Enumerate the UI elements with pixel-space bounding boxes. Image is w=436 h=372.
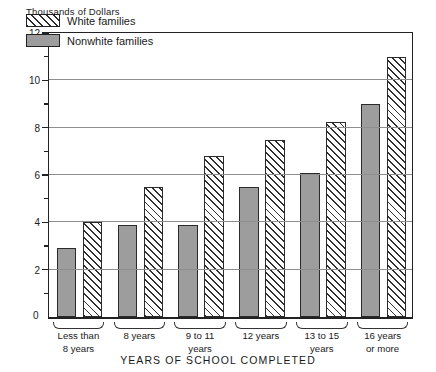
chart-legend: White families Nonwhite families (26, 14, 153, 54)
gridline-6 (49, 174, 412, 175)
group-brace-3 (235, 322, 287, 329)
group-brace-2 (174, 322, 226, 329)
plot-area: 24681012 (48, 32, 413, 318)
y-tick-label-4: 4 (34, 217, 40, 228)
bar-white-3 (265, 140, 285, 318)
hatch-swatch-icon (26, 14, 60, 27)
bars-layer (49, 33, 412, 317)
solid-swatch-icon (26, 34, 60, 47)
gridline-8 (49, 127, 412, 128)
bar-nonwhite-0 (57, 248, 77, 317)
bar-nonwhite-4 (300, 173, 320, 317)
category-label-5: 16 years or more (352, 330, 413, 355)
y-tick-6 (42, 174, 49, 175)
x-axis-baseline (48, 317, 413, 319)
y-tick-label-10: 10 (29, 75, 40, 86)
bar-white-5 (387, 57, 407, 317)
y-minor-tick-3 (44, 245, 49, 246)
y-minor-tick-7 (44, 151, 49, 152)
y-tick-4 (42, 222, 49, 223)
group-brace-4 (296, 322, 348, 329)
income-by-education-bar-chart: Thousands of Dollars 24681012 White fami… (0, 0, 436, 372)
x-axis-title: YEARS OF SCHOOL COMPLETED (0, 354, 436, 366)
group-brace-5 (357, 322, 409, 329)
y-tick-label-2: 2 (34, 264, 40, 275)
bar-nonwhite-3 (239, 187, 259, 317)
bar-white-1 (144, 187, 164, 317)
legend-item-white-families: White families (26, 14, 153, 27)
gridline-10 (49, 79, 412, 80)
y-minor-tick-5 (44, 198, 49, 199)
y-tick-2 (42, 269, 49, 270)
bar-nonwhite-1 (118, 225, 138, 317)
category-label-1: 8 years (109, 330, 170, 343)
y-minor-tick-9 (44, 103, 49, 104)
bar-nonwhite-2 (178, 225, 198, 317)
category-label-4: 13 to 15 years (291, 330, 352, 355)
bar-nonwhite-5 (361, 104, 381, 317)
category-label-2: 9 to 11 years (170, 330, 231, 355)
y-tick-10 (42, 80, 49, 81)
y-minor-tick-1 (44, 293, 49, 294)
y-tick-8 (42, 127, 49, 128)
legend-item-nonwhite-families: Nonwhite families (26, 34, 153, 47)
legend-label-nonwhite-families: Nonwhite families (67, 35, 153, 47)
category-label-0: Less than 8 years (48, 330, 109, 355)
gridline-2 (49, 269, 412, 270)
category-label-3: 12 years (231, 330, 292, 343)
bar-white-2 (204, 156, 224, 317)
legend-label-white-families: White families (67, 15, 135, 27)
group-brace-0 (53, 322, 105, 329)
y-tick-label-zero: 0 (33, 310, 39, 321)
bar-white-0 (83, 222, 103, 317)
group-brace-1 (114, 322, 166, 329)
y-minor-tick-11 (44, 56, 49, 57)
y-tick-label-8: 8 (34, 122, 40, 133)
gridline-4 (49, 221, 412, 222)
y-tick-label-6: 6 (34, 170, 40, 181)
bar-white-4 (326, 122, 346, 317)
